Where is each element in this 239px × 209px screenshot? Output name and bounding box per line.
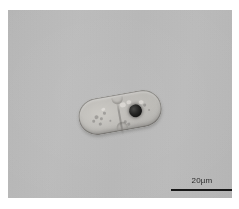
cell-body: [76, 87, 165, 138]
cytoplasmic-granule: [148, 109, 150, 111]
cytoplasmic-granule: [100, 117, 103, 120]
cell-highlight: [126, 100, 132, 105]
cytoplasmic-granule: [94, 115, 99, 120]
cytoplasmic-granule: [99, 122, 102, 125]
scale-bar-label: 20µm: [171, 176, 232, 186]
cytoplasmic-granule: [92, 119, 95, 122]
micrograph-field: 20µm: [8, 10, 232, 198]
dark-inclusion: [128, 103, 143, 118]
cytoplasmic-granule: [127, 123, 130, 126]
cytoplasmic-granule: [143, 103, 146, 106]
cell-highlight: [119, 102, 126, 108]
scale-bar: 20µm: [171, 176, 232, 191]
cytoplasmic-granule: [103, 112, 106, 115]
cytoplasmic-granule: [109, 120, 111, 122]
figure-root: 20µm: [0, 0, 239, 209]
scale-bar-line: [171, 189, 232, 191]
